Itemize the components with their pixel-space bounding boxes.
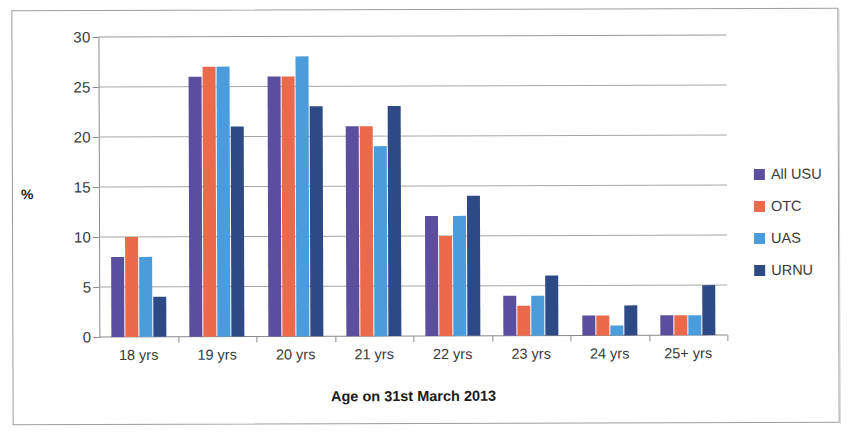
y-axis-tick-label: 5	[83, 279, 92, 296]
bar	[661, 315, 674, 335]
y-axis-tick-label: 10	[74, 229, 91, 246]
bar-group	[98, 37, 177, 337]
plot-area	[98, 35, 727, 337]
bar-series-container	[98, 35, 727, 337]
bar	[217, 67, 231, 337]
y-axis-tick-label: 30	[73, 29, 90, 46]
bar	[675, 315, 688, 335]
x-axis-tick-label: 22 yrs	[433, 346, 473, 362]
x-axis-tick	[335, 336, 336, 342]
x-axis-tick-labels: 18 yrs19 yrs20 yrs21 yrs22 yrs23 yrs24 y…	[99, 345, 727, 371]
x-axis-tick-label: 24 yrs	[590, 345, 630, 361]
x-axis-tick	[727, 335, 728, 341]
legend-swatch-icon	[754, 168, 765, 179]
x-axis-tick-label: 21 yrs	[354, 346, 394, 362]
bar	[139, 257, 152, 337]
bar	[309, 106, 323, 336]
x-axis-tick	[649, 335, 650, 341]
y-axis-tick-label: 15	[74, 179, 91, 196]
bar	[518, 306, 531, 336]
bar	[281, 76, 295, 336]
x-axis-tick-label: 18 yrs	[119, 347, 159, 363]
bar-group	[177, 37, 256, 337]
bar	[689, 315, 702, 335]
legend-label: UAS	[771, 230, 801, 246]
legend-swatch-icon	[754, 200, 765, 211]
bar	[439, 236, 452, 336]
chart-frame: % 051015202530 18 yrs19 yrs20 yrs21 yrs2…	[11, 8, 839, 426]
legend-item[interactable]: OTC	[754, 199, 838, 213]
bar	[346, 126, 360, 336]
x-axis-tick-label: 19 yrs	[197, 347, 237, 363]
bar	[374, 146, 388, 336]
bar	[189, 77, 203, 337]
legend-item[interactable]: UAS	[754, 231, 838, 245]
x-axis-tick	[178, 337, 179, 343]
bar	[610, 325, 623, 335]
bar-group	[334, 36, 413, 336]
x-axis-tick	[570, 336, 571, 342]
bar	[231, 127, 245, 337]
legend-item[interactable]: URNU	[754, 263, 838, 277]
legend-label: All USU	[771, 166, 822, 182]
bar	[531, 296, 544, 336]
legend-item[interactable]: All USU	[754, 167, 838, 181]
legend-divider	[838, 9, 840, 424]
bar	[624, 305, 637, 335]
bar	[125, 237, 138, 337]
x-axis-tick	[256, 337, 257, 343]
bar	[453, 216, 466, 336]
legend-label: URNU	[771, 262, 813, 278]
bar	[702, 285, 715, 335]
legend-swatch-icon	[754, 232, 765, 243]
bar	[596, 315, 609, 335]
bar	[545, 276, 558, 336]
y-axis-title: %	[21, 186, 34, 202]
bar-group	[491, 36, 570, 336]
bar	[153, 297, 166, 337]
x-axis-tick-label: 25+ yrs	[664, 345, 712, 361]
bar-group	[255, 36, 334, 336]
bar	[388, 106, 402, 336]
bar	[582, 315, 595, 335]
bar	[360, 126, 374, 336]
x-axis-tick	[492, 336, 493, 342]
x-axis-tick	[413, 336, 414, 342]
x-axis-tick-label: 23 yrs	[511, 346, 551, 362]
y-axis-tick	[93, 337, 99, 338]
bar-group	[569, 35, 648, 335]
bar	[295, 56, 309, 336]
y-axis-tick-labels: 051015202530	[42, 37, 91, 337]
chart-plot-wrapper: % 051015202530 18 yrs19 yrs20 yrs21 yrs2…	[12, 9, 838, 425]
bar	[503, 296, 516, 336]
x-axis-title: Age on 31st March 2013	[100, 387, 728, 405]
y-axis-tick-label: 20	[74, 129, 91, 146]
y-axis-tick-label: 25	[73, 79, 90, 96]
legend-label: OTC	[771, 198, 802, 214]
bar-group	[412, 36, 491, 336]
bar	[425, 216, 438, 336]
legend-swatch-icon	[754, 264, 765, 275]
bar	[111, 257, 124, 337]
x-axis-tick-label: 20 yrs	[276, 346, 316, 362]
chart-legend: All USUOTCUASURNU	[754, 167, 838, 295]
bar	[467, 196, 480, 336]
bar	[267, 76, 281, 336]
bar	[203, 67, 217, 337]
bar-group	[648, 35, 727, 335]
y-axis-tick-label: 0	[83, 329, 92, 346]
